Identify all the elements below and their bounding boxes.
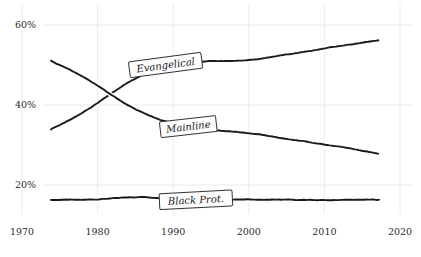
y-tick-label: 60% xyxy=(15,19,36,30)
series-label-black-prot: Black Prot. xyxy=(159,190,233,210)
x-tick-label: 2010 xyxy=(312,226,336,237)
chart-container: 20%40%60% 197019801990200020102020 Evang… xyxy=(0,0,421,257)
line-chart: 20%40%60% 197019801990200020102020 Evang… xyxy=(0,0,421,257)
x-tick-label: 1990 xyxy=(161,226,185,237)
x-tick-label: 1970 xyxy=(10,226,34,237)
y-tick-label: 40% xyxy=(15,99,36,110)
x-tick-label: 2020 xyxy=(388,226,412,237)
x-tick-label: 2000 xyxy=(237,226,261,237)
x-tick-label: 1980 xyxy=(86,226,110,237)
y-tick-label: 20% xyxy=(15,179,36,190)
